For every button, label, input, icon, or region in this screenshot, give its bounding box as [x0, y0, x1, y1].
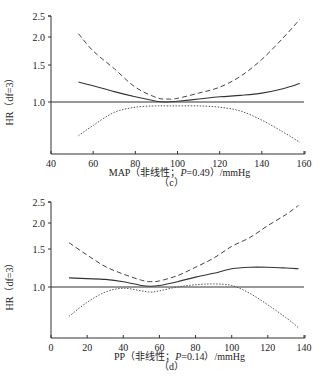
- y-tick-label: 2.5: [33, 197, 46, 208]
- y-tick-label: 1.0: [33, 97, 46, 108]
- y-tick-label: 2.0: [33, 218, 46, 229]
- y-tick-label: 1.5: [33, 60, 46, 71]
- y-tick-label: 1.0: [33, 282, 46, 293]
- panel-caption: （c）: [159, 177, 183, 188]
- x-tick-label: 120: [260, 342, 275, 353]
- y-tick-label: 2.0: [33, 32, 46, 43]
- series-solid: [78, 82, 299, 102]
- x-tick-label: 40: [46, 158, 56, 169]
- y-tick-label: 2.5: [33, 11, 46, 22]
- y-axis-label: HR（df=3）: [4, 73, 15, 126]
- series-dashed: [78, 19, 299, 99]
- panel-caption: （d）: [159, 361, 184, 372]
- x-tick-label: 60: [88, 158, 98, 169]
- series-dashed: [69, 205, 299, 281]
- figure: 1.01.52.02.5406080100120140160HR（df=3）MA…: [0, 0, 325, 382]
- y-tick-label: 1.5: [33, 244, 46, 255]
- y-axis-label: HR（df=3）: [4, 258, 15, 311]
- axes: [48, 202, 305, 338]
- series-dotted: [69, 284, 299, 328]
- x-tick-label: 140: [254, 158, 269, 169]
- series-dotted: [78, 106, 299, 142]
- series-solid: [69, 267, 299, 286]
- chart-panel-d: 1.01.52.02.5020406080100120140HR（df=3）PP…: [4, 197, 312, 373]
- axes: [48, 16, 305, 154]
- x-tick-label: 160: [297, 158, 312, 169]
- x-tick-label: 0: [49, 342, 54, 353]
- x-tick-label: 140: [297, 342, 312, 353]
- chart-panel-c: 1.01.52.02.5406080100120140160HR（df=3）MA…: [4, 11, 312, 189]
- x-tick-label: 20: [82, 342, 92, 353]
